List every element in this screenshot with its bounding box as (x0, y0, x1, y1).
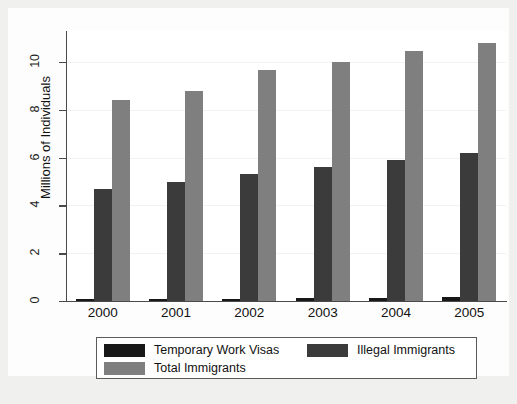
gridline (67, 205, 506, 206)
bar (112, 100, 130, 301)
bar (405, 51, 423, 301)
y-axis-tick (59, 205, 66, 206)
legend-item-illegal-immigrants[interactable]: Illegal Immigrants (307, 343, 455, 357)
x-axis-tick-label: 2000 (73, 305, 133, 320)
y-axis-tick (59, 253, 66, 254)
x-axis-line (66, 301, 507, 302)
y-axis-tick (59, 62, 66, 63)
bar (460, 153, 478, 301)
page-background: Millions of Individuals 0246810 20002001… (0, 0, 517, 404)
y-axis-tick-label: 8 (28, 92, 42, 126)
y-axis-tick-label: 2 (28, 235, 42, 269)
x-axis-tick-label: 2004 (366, 305, 426, 320)
y-axis-tick-label: 4 (28, 187, 42, 221)
x-axis-tick-label: 2005 (439, 305, 499, 320)
bar (222, 299, 240, 301)
gridline (67, 253, 506, 254)
plot-area (66, 31, 507, 302)
bar (185, 91, 203, 301)
bar (94, 189, 112, 301)
bar (296, 298, 314, 301)
legend-item-total-immigrants[interactable]: Total Immigrants (104, 361, 246, 375)
y-axis-tick (59, 110, 66, 111)
bar (314, 167, 332, 301)
legend-swatch-icon (307, 344, 348, 357)
legend-swatch-icon (104, 344, 145, 357)
bar (258, 70, 276, 301)
bar (369, 298, 387, 301)
gridline (67, 158, 506, 159)
legend-label: Temporary Work Visas (154, 343, 279, 357)
bar (240, 174, 258, 301)
legend-label: Total Immigrants (154, 361, 246, 375)
gridline (67, 110, 506, 111)
y-axis-tick-label: 6 (28, 140, 42, 174)
chart-figure: Millions of Individuals 0246810 20002001… (8, 8, 509, 376)
x-axis-tick-label: 2002 (219, 305, 279, 320)
bar (167, 182, 185, 301)
bar (149, 299, 167, 301)
gridline (67, 62, 506, 63)
legend-swatch-icon (104, 362, 145, 375)
y-axis-tick (59, 301, 66, 302)
y-axis-tick-label: 10 (28, 44, 42, 78)
bar (442, 297, 460, 301)
x-axis-tick-label: 2001 (146, 305, 206, 320)
legend-label: Illegal Immigrants (357, 343, 455, 357)
bar (387, 160, 405, 301)
bar (332, 62, 350, 301)
bar (478, 43, 496, 301)
y-axis-tick-label: 0 (28, 283, 42, 317)
bar (76, 299, 94, 301)
x-axis-tick-label: 2003 (293, 305, 353, 320)
chart-legend: Temporary Work Visas Illegal Immigrants … (96, 337, 477, 379)
legend-item-temporary-work-visas[interactable]: Temporary Work Visas (104, 343, 279, 357)
y-axis-tick (59, 158, 66, 159)
